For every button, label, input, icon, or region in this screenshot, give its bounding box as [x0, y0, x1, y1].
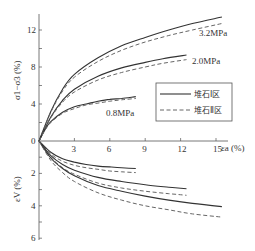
- lower-y-tick-label: 6: [31, 233, 36, 243]
- upper-y-tick-label: 4: [31, 99, 36, 109]
- lower-curve: [39, 141, 222, 207]
- legend-label-zone-1: 堆石Ⅰ区: [194, 89, 220, 99]
- x-tick-label: 12: [178, 144, 187, 154]
- legend-box: [156, 83, 232, 121]
- x-tick-label: 3: [71, 144, 76, 154]
- upper-y-tick-label: 12: [27, 25, 36, 35]
- x-tick-label: 9: [142, 144, 147, 154]
- annotation-3.2mpa: 3.2MPa: [199, 28, 227, 38]
- lower-y-tick-label: 0: [31, 136, 36, 146]
- lower-y-tick-label: 2: [31, 168, 36, 178]
- upper-curve: [39, 24, 222, 142]
- lower-curve: [39, 141, 222, 217]
- x-axis-label: εa (%): [221, 143, 245, 153]
- legend-label-zone-2: 堆石Ⅱ区: [194, 105, 222, 115]
- annotation-2.0mpa: 2.0MPa: [192, 56, 220, 66]
- stress-strain-chart: 369121548120246 εa (%) σ1−σ3 (%) εV (%) …: [0, 0, 255, 251]
- upper-y-tick-label: 8: [31, 62, 36, 72]
- lower-curve: [39, 141, 187, 189]
- legend: 堆石Ⅰ区 堆石Ⅱ区: [156, 83, 232, 121]
- upper-y-axis-label: σ1−σ3 (%): [12, 60, 22, 100]
- lower-y-axis-label: εV (%): [12, 176, 22, 202]
- lower-y-tick-label: 4: [31, 201, 36, 211]
- upper-curve: [39, 17, 222, 141]
- upper-curve: [39, 97, 136, 141]
- x-tick-label: 6: [107, 144, 112, 154]
- annotation-0.8mpa: 0.8MPa: [106, 108, 134, 118]
